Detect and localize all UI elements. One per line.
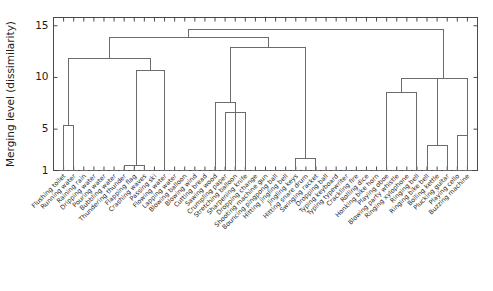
dendrogram-link <box>137 70 165 170</box>
y-tick-label: 5 <box>42 122 49 134</box>
dendrogram-link <box>189 29 444 78</box>
dendrogram-link <box>457 135 467 170</box>
axis-frame <box>54 18 478 171</box>
dendrogram-link <box>230 47 306 158</box>
y-axis: 151015 <box>35 19 477 176</box>
dendrogram-link <box>64 125 74 170</box>
dendrogram-figure: 151015 Flushing toiletRunning waterRaini… <box>0 0 493 291</box>
dendrogram-link <box>387 93 417 171</box>
y-tick-label: 1 <box>42 164 49 176</box>
dendrogram-link <box>110 38 268 59</box>
dendrogram-link <box>225 102 235 112</box>
dendrogram-link <box>69 58 151 125</box>
dendrogram-link <box>124 166 134 171</box>
dendrogram-plot: 151015 Flushing toiletRunning waterRaini… <box>0 0 493 291</box>
dendrogram-link <box>129 166 144 171</box>
y-axis-title: Merging level (dissimilarity) <box>4 21 16 167</box>
dendrogram-link <box>402 78 437 145</box>
x-axis-top-ticks <box>64 18 468 22</box>
dendrogram-links <box>59 29 471 170</box>
y-tick-label: 10 <box>35 70 48 82</box>
y-tick-label: 15 <box>35 19 48 31</box>
plot-border <box>54 18 478 171</box>
leaf-labels: Flushing toiletRunning waterRaining rain… <box>30 172 471 231</box>
